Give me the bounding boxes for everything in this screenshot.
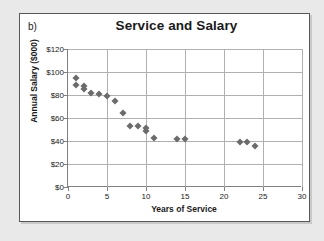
data-point [127, 123, 134, 130]
data-point [119, 110, 126, 117]
data-point [103, 93, 110, 100]
x-tick-label: 5 [105, 192, 109, 201]
x-gridline [302, 49, 303, 187]
y-tick-mark [64, 141, 68, 142]
x-tick-mark [68, 187, 69, 191]
x-tick-label: 20 [220, 192, 229, 201]
plot-area: $0$20$40$60$80$100$120051015202530 [67, 49, 301, 187]
y-tick-label: $120 [46, 45, 64, 54]
x-gridline [263, 49, 264, 187]
chart-card: b) Service and Salary $0$20$40$60$80$100… [19, 13, 310, 222]
y-axis-title: Annual Salary ($000) [29, 19, 39, 143]
x-tick-label: 30 [298, 192, 307, 201]
data-point [111, 97, 118, 104]
x-tick-mark [302, 187, 303, 191]
data-point [252, 142, 259, 149]
x-gridline [146, 49, 147, 187]
data-point [135, 123, 142, 130]
figure-page: b) Service and Salary $0$20$40$60$80$100… [0, 0, 324, 241]
x-tick-mark [107, 187, 108, 191]
data-point [244, 139, 251, 146]
x-tick-label: 10 [142, 192, 151, 201]
data-point [72, 74, 79, 81]
data-point [236, 139, 243, 146]
data-point [80, 86, 87, 93]
x-tick-mark [146, 187, 147, 191]
data-point [96, 90, 103, 97]
y-tick-mark [64, 95, 68, 96]
y-tick-label: $20 [51, 160, 64, 169]
y-tick-label: $60 [51, 114, 64, 123]
data-point [72, 81, 79, 88]
x-tick-label: 25 [259, 192, 268, 201]
x-tick-label: 0 [66, 192, 70, 201]
y-tick-label: $40 [51, 137, 64, 146]
y-tick-mark [64, 72, 68, 73]
y-tick-mark [64, 49, 68, 50]
x-tick-mark [224, 187, 225, 191]
y-tick-label: $80 [51, 91, 64, 100]
chart-title: Service and Salary [20, 18, 311, 33]
x-gridline [107, 49, 108, 187]
y-tick-mark [64, 164, 68, 165]
x-axis-title: Years of Service [67, 204, 301, 214]
x-tick-mark [263, 187, 264, 191]
x-tick-mark [185, 187, 186, 191]
x-gridline [224, 49, 225, 187]
x-gridline [185, 49, 186, 187]
x-tick-label: 15 [181, 192, 190, 201]
y-tick-label: $0 [55, 183, 64, 192]
y-tick-label: $100 [46, 68, 64, 77]
y-tick-mark [64, 118, 68, 119]
